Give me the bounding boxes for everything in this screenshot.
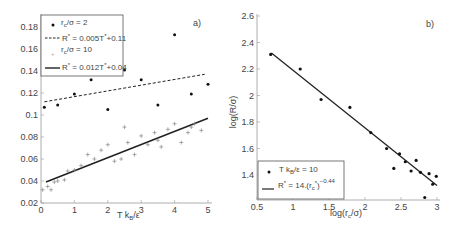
- data-point: [139, 134, 143, 138]
- data-point: [106, 143, 110, 147]
- x-tick-label: 2.5: [395, 202, 408, 212]
- data-point: [385, 147, 388, 150]
- y-tick-label: 2.4: [241, 38, 254, 48]
- data-point: [153, 131, 157, 135]
- y-tick-label: 0.14: [20, 66, 38, 76]
- data-point: [73, 93, 76, 96]
- data-point: [179, 141, 183, 145]
- data-point: [159, 145, 163, 149]
- data-point: [435, 175, 438, 178]
- data-point: [299, 67, 302, 70]
- data-point: [415, 159, 418, 162]
- data-point: [423, 196, 426, 199]
- data-point: [419, 171, 422, 174]
- data-point: [126, 141, 130, 145]
- x-tick-label: 1: [72, 205, 77, 215]
- data-point: [112, 159, 116, 163]
- x-tick-label: 3: [434, 202, 439, 212]
- panel-a-fit-line-dashed: [44, 74, 204, 102]
- y-tick-label: 2.6: [241, 11, 254, 21]
- y-tick-label: 1.6: [241, 144, 254, 154]
- x-tick-label: 0.5: [251, 202, 264, 212]
- data-point: [49, 188, 53, 192]
- panel-a-series-rc10: [41, 122, 204, 192]
- data-point: [99, 148, 103, 152]
- x-tick-label: 0: [38, 205, 43, 215]
- legend-dot-marker: [52, 24, 55, 27]
- y-tick-label: 0.06: [20, 154, 38, 164]
- y-tick-label: 2: [249, 91, 254, 101]
- data-point: [119, 157, 123, 161]
- data-point: [140, 78, 143, 81]
- legend-plus-marker: +: [51, 51, 55, 57]
- data-point: [392, 167, 395, 170]
- x-tick-label: 5: [205, 205, 210, 215]
- panel-a-fit-line-solid: [46, 118, 208, 182]
- x-tick-label: 2: [362, 202, 367, 212]
- data-point: [199, 128, 203, 132]
- panel-a-y-ticks: 0.020.040.060.080.10.120.140.160.18: [20, 22, 44, 208]
- y-tick-label: 0.18: [20, 22, 38, 32]
- panel-a-x-label: T kB/ε: [117, 210, 140, 221]
- y-tick-label: 1.4: [241, 170, 254, 180]
- data-point: [133, 153, 137, 157]
- data-point: [46, 185, 50, 189]
- panel-b-y-label: log(R/σ): [228, 96, 238, 129]
- data-point: [173, 33, 176, 36]
- panel-a-label: a): [193, 18, 201, 28]
- data-point: [173, 122, 177, 126]
- data-point: [348, 106, 351, 109]
- data-point: [186, 131, 190, 135]
- panel-b-label: b): [426, 19, 434, 29]
- panel-a: 0.020.040.060.080.10.120.140.160.18 0123…: [20, 14, 212, 221]
- data-point: [90, 78, 93, 81]
- panel-a-legend: rc/σ = 2 R* = 0.005T*+0.11 + rc/σ = 10 R…: [41, 15, 127, 76]
- figure: 0.020.040.060.080.10.120.140.160.18 0123…: [0, 0, 456, 234]
- y-tick-label: 0.02: [20, 198, 38, 208]
- data-point: [166, 127, 170, 131]
- data-point: [404, 160, 407, 163]
- y-tick-label: 0.04: [20, 176, 38, 186]
- data-point: [123, 125, 127, 129]
- panel-b-x-label: log(rc/σ): [330, 208, 362, 219]
- panel-b: 1.41.61.822.22.42.6 0.511.522.53 b) log(…: [228, 11, 440, 219]
- data-point: [92, 157, 96, 161]
- data-point: [431, 183, 434, 186]
- y-tick-label: 2.2: [241, 64, 254, 74]
- data-point: [369, 131, 372, 134]
- data-point: [43, 106, 46, 109]
- data-point: [86, 153, 90, 157]
- panel-a-legend-item-4: R* = 0.012T*+0.04: [62, 62, 127, 72]
- x-tick-label: 4: [172, 205, 177, 215]
- y-tick-label: 0.12: [20, 88, 38, 98]
- data-point: [269, 53, 272, 56]
- data-point: [62, 178, 66, 182]
- data-point: [207, 83, 210, 86]
- y-tick-label: 0.16: [20, 44, 38, 54]
- data-point: [156, 104, 159, 107]
- y-tick-label: 1.8: [241, 117, 254, 127]
- panel-a-legend-item-3: rc/σ = 10: [61, 45, 92, 55]
- legend-dot-marker: [268, 171, 271, 174]
- data-point: [398, 152, 401, 155]
- y-tick-label: 0.1: [25, 110, 38, 120]
- x-tick-label: 2: [105, 205, 110, 215]
- x-tick-label: 1: [290, 202, 295, 212]
- data-point: [106, 108, 109, 111]
- panel-b-legend-item-1: T kB/ε = 10: [279, 165, 318, 175]
- data-point: [190, 93, 193, 96]
- data-point: [319, 98, 322, 101]
- data-point: [409, 169, 412, 172]
- data-point: [56, 104, 59, 107]
- data-point: [427, 172, 430, 175]
- panel-a-legend-item-2: R* = 0.005T*+0.11: [62, 33, 127, 43]
- y-tick-label: 0.08: [20, 132, 38, 142]
- panel-b-legend: T kB/ε = 10 R* = 14.(rc*)−0.44: [258, 161, 344, 199]
